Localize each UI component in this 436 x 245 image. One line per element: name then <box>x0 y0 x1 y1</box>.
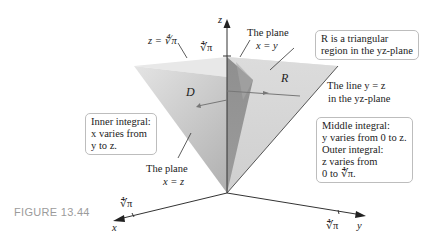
y-tick-label: ∜π <box>326 220 338 232</box>
x-arrow-icon <box>113 215 125 222</box>
plane-xz-label-line2: x = z <box>163 176 184 188</box>
x-tick-label: ∜π <box>120 198 132 210</box>
z-axis-label: z <box>218 14 222 26</box>
y-axis <box>227 193 362 215</box>
inner-integral-box: Inner integral: x varies from y to z. <box>85 113 157 155</box>
z-arrow-icon <box>224 19 231 28</box>
plane-xz-label-line1: The plane <box>146 163 188 175</box>
line-yz-label-line1: The line y = z <box>327 80 385 92</box>
z-plane-label: z = ∜π <box>148 35 177 47</box>
region-R-label: R <box>281 72 288 84</box>
z-tick-label: ∜π <box>200 42 212 54</box>
region-D-label: D <box>186 86 195 98</box>
figure-caption: FIGURE 13.44 <box>14 206 90 218</box>
y-axis-label: y <box>357 220 362 232</box>
middle-outer-integral-box: Middle integral: y varies from 0 to z. O… <box>316 117 413 183</box>
x-axis <box>119 193 227 219</box>
line-yz-label-line2: in the yz-plane <box>328 93 390 105</box>
plane-xy-label-line2: x = y <box>256 40 278 52</box>
plane-xy-label-line1: The plane <box>247 27 289 39</box>
y-arrow-icon <box>355 211 366 218</box>
R-description-box: R is a triangular region in the yz-plane <box>315 30 419 60</box>
x-axis-label: x <box>112 222 117 234</box>
